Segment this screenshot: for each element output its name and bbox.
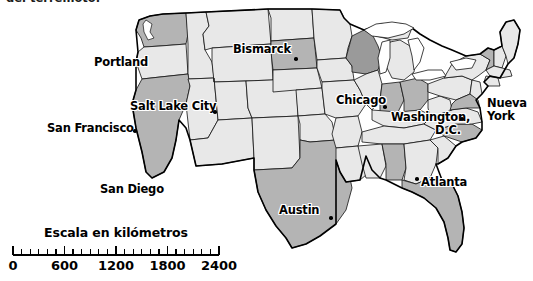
city-dot-bismarck xyxy=(294,57,298,61)
scale-bar-title: Escala en kilómetros xyxy=(0,225,232,240)
scale-tick-label-600: 600 xyxy=(51,258,78,273)
lake-erie xyxy=(412,70,446,80)
scale-tick-label-2400: 2400 xyxy=(201,258,237,273)
city-label-austin: Austin xyxy=(279,204,319,217)
state-new-mexico xyxy=(252,116,300,170)
map-scale-bar: Escala en kilómetros 0600120018002400 xyxy=(0,225,240,281)
scale-tick-label-1200: 1200 xyxy=(98,258,134,273)
city-label-nueva-york: NuevaYork xyxy=(487,97,533,123)
city-label-salt-lake-city: Salt Lake City xyxy=(130,100,216,113)
state-arkansas xyxy=(332,116,362,148)
city-dot-salt-lake-city xyxy=(213,110,217,114)
state-ohio xyxy=(400,78,428,112)
city-dot-chicago xyxy=(383,105,387,109)
city-dot-washington-dc xyxy=(460,117,464,121)
state-california xyxy=(132,74,190,178)
state-kansas xyxy=(296,88,325,116)
city-label-san-francisco: San Francisco xyxy=(47,122,134,135)
city-label-san-diego: San Diego xyxy=(100,183,164,196)
city-label-bismarck: Bismarck xyxy=(233,43,291,56)
city-label-washington-dc: Washington,D.C. xyxy=(391,111,461,137)
state-north-dakota xyxy=(268,9,314,41)
city-label-atlanta: Atlanta xyxy=(421,176,467,189)
city-label-portland: Portland xyxy=(94,56,148,69)
city-dot-san-francisco xyxy=(133,129,137,133)
city-dot-atlanta xyxy=(415,177,419,181)
scale-tick-label-0: 0 xyxy=(8,258,17,273)
scale-tick-label-1800: 1800 xyxy=(149,258,185,273)
map-figure: del terremoto. xyxy=(0,0,533,281)
city-label-chicago: Chicago xyxy=(336,94,386,107)
state-oklahoma xyxy=(298,114,336,142)
state-alabama xyxy=(382,144,406,180)
city-dot-austin xyxy=(329,216,333,220)
state-minnesota xyxy=(312,9,352,60)
